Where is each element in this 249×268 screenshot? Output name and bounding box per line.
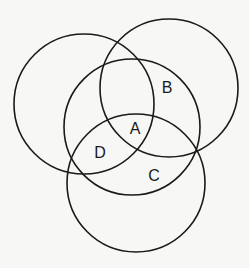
label-b: B xyxy=(162,79,173,96)
label-d: D xyxy=(94,144,106,161)
venn-diagram: A B C D xyxy=(0,0,249,268)
label-a: A xyxy=(130,120,141,137)
label-c: C xyxy=(148,167,160,184)
circle-left xyxy=(14,34,154,174)
